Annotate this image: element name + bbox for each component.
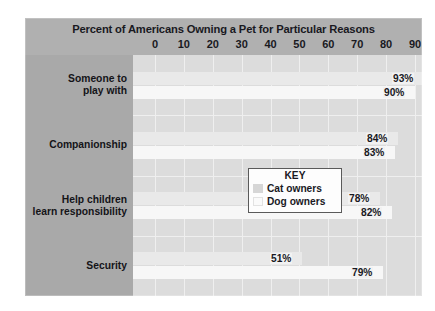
category-label-panel: Someone toplay withCompanionshipHelp chi… [25,55,133,296]
bar-value-label: 90% [383,87,405,98]
bar-dog-owners-0 [133,86,415,99]
legend-label-cat-owners: Cat owners [267,182,322,195]
chart-legend: KEY Cat owners Dog owners [248,168,342,213]
bar-value-label: 51% [270,253,292,264]
bar-chart-figure: Percent of Americans Owning a Pet for Pa… [25,18,422,296]
x-tick-label-90: 90 [402,38,422,50]
category-label-line: Security [25,260,127,272]
x-tick-label-50: 50 [286,38,312,50]
category-label-line: Companionship [25,139,127,151]
legend-label-dog-owners: Dog owners [267,195,325,208]
x-tick-label-80: 80 [373,38,399,50]
category-label-2: Help childrenlearn responsibility [25,194,127,218]
bar-dog-owners-3 [133,266,383,279]
legend-title: KEY [249,170,341,182]
x-tick-label-60: 60 [315,38,341,50]
x-tick-label-0: 0 [142,38,168,50]
chart-title: Percent of Americans Owning a Pet for Pa… [25,23,422,35]
x-tick-label-30: 30 [229,38,255,50]
bar-value-label: 78% [348,193,370,204]
x-tick-label-10: 10 [171,38,197,50]
bar-value-label: 79% [351,267,373,278]
bar-value-label: 83% [363,147,385,158]
legend-item-dog-owners: Dog owners [253,195,341,208]
legend-swatch-dog-owners [253,197,263,206]
x-tick-label-70: 70 [344,38,370,50]
bar-dog-owners-1 [133,146,395,159]
group-separator [133,115,422,116]
category-label-line: Someone to [25,73,127,85]
legend-item-cat-owners: Cat owners [253,182,341,195]
x-axis-tick-labels: 0102030405060708090 [25,38,422,54]
bar-value-label: 93% [392,73,414,84]
bar-value-label: 84% [366,133,388,144]
category-label-line: learn responsibility [25,206,127,218]
category-label-3: Security [25,260,127,272]
category-label-1: Companionship [25,139,127,151]
bar-value-label: 82% [360,207,382,218]
bar-cat-owners-1 [133,132,398,145]
x-tick-label-20: 20 [200,38,226,50]
category-label-line: play with [25,85,127,97]
group-separator [133,236,422,237]
x-tick-label-40: 40 [258,38,284,50]
category-label-0: Someone toplay with [25,73,127,97]
bar-cat-owners-0 [133,72,422,85]
category-label-line: Help children [25,194,127,206]
legend-swatch-cat-owners [253,184,263,193]
